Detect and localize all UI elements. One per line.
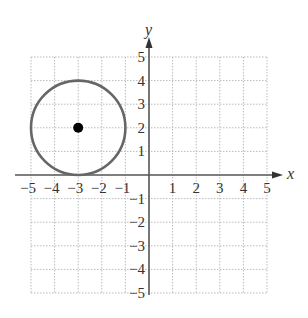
x-tick-label: −4 bbox=[44, 180, 60, 196]
x-axis-arrow-icon bbox=[272, 172, 283, 179]
y-axis-arrow-icon bbox=[146, 37, 153, 48]
y-axis-label: y bbox=[143, 21, 153, 39]
x-tick-label: 2 bbox=[192, 180, 200, 196]
y-tick-label: 1 bbox=[138, 143, 146, 159]
x-tick-label: 4 bbox=[240, 180, 248, 196]
y-tick-label: 5 bbox=[138, 49, 146, 65]
x-tick-label: 1 bbox=[169, 180, 177, 196]
y-tick-label: −5 bbox=[129, 285, 145, 301]
x-axis-label: x bbox=[286, 165, 294, 182]
x-tick-label: 5 bbox=[263, 180, 271, 196]
center-point bbox=[73, 123, 83, 133]
plotted-shapes bbox=[31, 81, 125, 175]
y-tick-label: −3 bbox=[129, 238, 145, 254]
y-tick-label: −4 bbox=[129, 261, 145, 277]
x-tick-label: −5 bbox=[20, 180, 36, 196]
x-tick-label: 3 bbox=[216, 180, 224, 196]
axes bbox=[15, 37, 283, 295]
y-tick-label: −1 bbox=[129, 191, 145, 207]
y-tick-label: 4 bbox=[138, 73, 146, 89]
y-tick-label: −2 bbox=[129, 214, 145, 230]
coordinate-plane: −5−4−3−2−11234554321−1−2−3−4−5 x y bbox=[0, 0, 308, 318]
y-tick-label: 2 bbox=[138, 120, 146, 136]
y-tick-label: 3 bbox=[138, 96, 146, 112]
x-tick-label: −1 bbox=[114, 180, 130, 196]
x-tick-label: −3 bbox=[67, 180, 83, 196]
x-tick-label: −2 bbox=[91, 180, 107, 196]
